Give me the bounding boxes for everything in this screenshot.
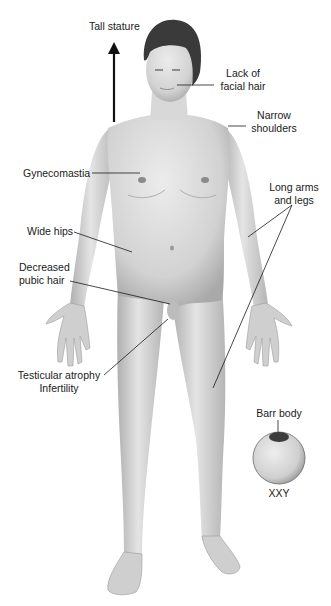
label-line: Decreased [19,261,70,274]
torso [107,114,229,308]
left-leg [117,285,164,556]
right-hand [246,303,292,366]
label-line: and legs [266,194,322,207]
label-lack-of-facial-hair: Lack of facial hair [216,67,270,92]
label-barr-body: Barr body [252,407,306,420]
label-gynecomastia: Gynecomastia [23,167,90,180]
barr-body-cell [253,432,305,484]
label-line: pubic hair [19,274,70,287]
label-line: Lack of [216,67,270,80]
label-decreased-pubic-hair: Decreased pubic hair [19,261,70,286]
barr-body [269,432,289,442]
label-line: Long arms [266,181,322,194]
label-long-arms-and-legs: Long arms and legs [266,181,322,206]
left-foot [108,552,142,595]
label-tall-stature: Tall stature [89,20,140,33]
label-line: facial hair [216,80,270,93]
left-hand [46,303,90,366]
label-narrow-shoulders: Narrow shoulders [248,109,300,134]
label-line: Narrow [248,109,300,122]
label-wide-hips: Wide hips [27,225,73,238]
right-leg [172,285,225,540]
label-line: shoulders [248,122,300,135]
label-karyotype-xxy: XXY [262,487,296,500]
human-figure-illustration [0,0,331,606]
tall-stature-arrow [108,42,120,122]
label-line: Testicular atrophy [16,369,102,382]
right-foot [202,536,240,574]
label-line: Infertility [16,382,102,395]
label-testicular-atrophy-infertility: Testicular atrophy Infertility [16,369,102,394]
klinefelter-diagram: Tall stature Lack of facial hair Narrow … [0,0,331,606]
